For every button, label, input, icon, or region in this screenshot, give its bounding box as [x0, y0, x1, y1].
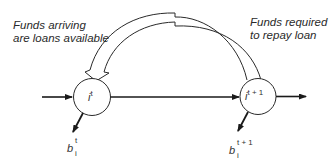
- annotation-right-line1: Funds required: [250, 16, 327, 29]
- outflow-label-t1-sub: i: [237, 151, 239, 160]
- node-label-t-sup: t: [90, 89, 92, 98]
- node-label-t: it: [88, 89, 93, 103]
- loan-flow-diagram: Funds arriving are loans available Funds…: [0, 0, 334, 164]
- outflow-label-t: b t i: [67, 142, 73, 154]
- node-label-t1: it + 1: [245, 88, 263, 102]
- node-label-t1-sup: t + 1: [247, 88, 263, 97]
- outflow-label-t-sup: t: [75, 136, 77, 145]
- outflow-label-t1-base: b: [229, 144, 235, 156]
- annotation-right-line2: to repay loan: [250, 29, 327, 42]
- outflow-label-t1: b t + 1 i: [229, 144, 235, 156]
- outflow-label-t-sub: i: [75, 149, 77, 158]
- outflow-arrow-t: [73, 113, 83, 132]
- hollow-loan-arrow: [85, 13, 261, 81]
- outflow-label-t1-sup: t + 1: [237, 138, 253, 147]
- outflow-arrow-t1: [238, 112, 248, 131]
- outflow-label-t-base: b: [67, 142, 73, 154]
- annotation-left-line1: Funds arriving: [13, 19, 109, 32]
- annotation-left-line2: are loans available: [13, 32, 109, 45]
- annotation-funds-arriving: Funds arriving are loans available: [13, 19, 109, 45]
- annotation-funds-required: Funds required to repay loan: [250, 16, 327, 42]
